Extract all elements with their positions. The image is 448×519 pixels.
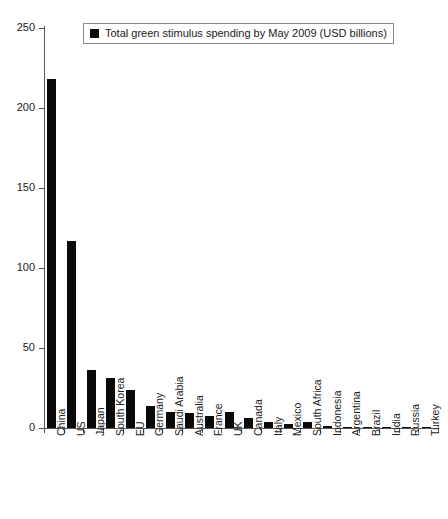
x-axis-label-text: China [56,409,67,436]
x-axis-label-text: Turkey [430,404,441,436]
x-axis-label-text: Australia [194,395,205,436]
y-axis-tick-label: 0 [0,422,35,433]
x-axis-label-text: EU [135,421,146,436]
x-axis-label-text: South Africa [312,379,323,436]
y-axis-tick-label: 250 [0,22,35,33]
x-axis-tick [44,428,45,433]
y-axis-tick-label: 200 [0,102,35,113]
x-axis-label-text: Indonesia [332,390,343,436]
x-axis-label-text: UK [233,421,244,436]
bar [67,241,76,428]
x-axis-label-text: Japan [95,407,106,436]
x-axis-label-text: Brazil [371,410,382,436]
x-axis-label-text: Germany [154,393,165,436]
x-axis-label-text: US [76,421,87,436]
y-axis-tick-label: 150 [0,182,35,193]
x-axis-label-text: South Korea [115,378,126,436]
x-axis-label-text: Mexico [292,403,303,436]
x-axis-label-text: India [391,413,402,436]
x-axis-label-text: Saudi Arabia [174,376,185,436]
x-axis-label-text: Canada [253,399,264,436]
x-axis-label-text: Italy [273,417,284,436]
bar [47,79,56,428]
y-axis-tick-label: 100 [0,262,35,273]
plot-area [44,28,438,428]
y-axis-tick-label: 50 [0,342,35,353]
x-axis-label-text: France [213,403,224,436]
x-axis-label-text: Russia [410,404,421,436]
bar-chart: Total green stimulus spending by May 200… [0,0,448,519]
x-axis-label-text: Argentina [351,391,362,436]
